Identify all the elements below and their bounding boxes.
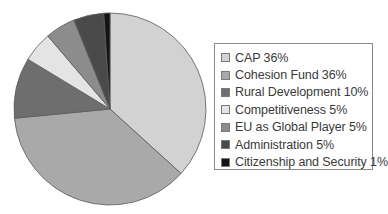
pie-chart <box>0 0 214 214</box>
legend-label: Administration 5% <box>235 138 334 152</box>
legend-item-citizenship-security: Citizenship and Security 1% <box>221 153 372 170</box>
legend-swatch <box>221 105 230 114</box>
legend-swatch <box>221 88 230 97</box>
legend-item-eu-global-player: EU as Global Player 5% <box>221 119 372 136</box>
legend-item-administration: Administration 5% <box>221 136 372 153</box>
legend-label: Cohesion Fund 36% <box>235 68 347 82</box>
legend-swatch <box>221 158 230 167</box>
legend-item-cohesion-fund: Cohesion Fund 36% <box>221 66 372 83</box>
legend-label: CAP 36% <box>235 51 288 65</box>
legend-swatch <box>221 140 230 149</box>
legend-swatch <box>221 123 230 132</box>
legend-swatch <box>221 71 230 80</box>
legend-label: Competitiveness 5% <box>235 103 347 117</box>
legend-label: Rural Development 10% <box>235 85 368 99</box>
legend: CAP 36% Cohesion Fund 36% Rural Developm… <box>214 43 373 170</box>
legend-item-rural-development: Rural Development 10% <box>221 84 372 101</box>
legend-swatch <box>221 53 230 62</box>
legend-label: EU as Global Player 5% <box>235 120 367 134</box>
legend-item-competitiveness: Competitiveness 5% <box>221 101 372 118</box>
legend-label: Citizenship and Security 1% <box>235 155 388 169</box>
legend-item-cap: CAP 36% <box>221 49 372 66</box>
